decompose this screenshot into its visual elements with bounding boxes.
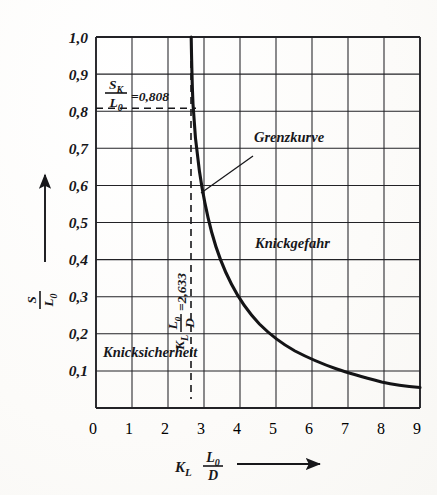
y-tick-0.4: 0,4 [69,251,89,268]
y-axis-title-group: S L0 [24,175,59,309]
y-tick-0.8: 0,8 [69,103,89,120]
x-axis-title-group: KL L0 D [174,450,320,483]
y-tick-0.6: 0,6 [69,177,89,194]
x-tick-4: 4 [233,420,241,437]
y-axis-tick-labels: 1,0 0,9 0,8 0,7 0,6 0,5 0,4 0,3 0,2 0,1 [69,29,90,379]
sk-ratio-denominator: L0 [108,95,122,113]
sk-ratio-value: =0,808 [131,89,169,104]
y-tick-0.7: 0,7 [69,140,90,157]
asymptote-value: =2,633 [174,273,189,311]
x-tick-8: 8 [377,420,385,437]
x-axis-title-kl: KL [174,459,192,478]
x-axis-title-numerator: L0 [205,450,220,468]
x-tick-0: 0 [89,420,97,437]
x-axis-tick-labels: 0 1 2 3 4 5 6 7 8 9 [89,420,421,437]
x-tick-2: 2 [161,420,169,437]
grenzkurve-leader-line [201,156,253,193]
x-tick-1: 1 [125,420,133,437]
x-tick-6: 6 [305,420,313,437]
x-axis-title-denominator: D [207,468,218,483]
x-tick-9: 9 [413,420,421,437]
x-tick-7: 7 [341,420,349,437]
sk-ratio-numerator: SK [109,77,125,95]
y-axis-title-numerator: S [24,296,39,303]
y-tick-0.5: 0,5 [69,214,89,231]
grenzkurve-label: Grenzkurve [254,129,325,145]
y-axis-title-denominator: L0 [41,294,59,308]
knicksicherheit-chart-figure: 1,0 0,9 0,8 0,7 0,6 0,5 0,4 0,3 0,2 0,1 … [0,0,437,495]
x-tick-5: 5 [269,420,277,437]
y-tick-0.9: 0,9 [69,66,89,83]
chart-svg: 1,0 0,9 0,8 0,7 0,6 0,5 0,4 0,3 0,2 0,1 … [0,0,437,495]
grenzkurve-curve [191,37,420,388]
knicksicherheit-label: Knicksicherheit [102,344,198,360]
asymptote-denominator: D [182,318,197,329]
asymptote-annotation: KL L0 D =2,633 [165,273,197,351]
y-tick-0.1: 0,1 [69,362,88,379]
x-tick-3: 3 [197,420,205,437]
y-tick-0.2: 0,2 [69,325,89,342]
grenzkurve-path [191,37,420,388]
y-tick-0.3: 0,3 [69,288,89,305]
sk-ratio-annotation: SK L0 =0,808 [105,77,169,113]
y-tick-1.0: 1,0 [69,29,89,46]
knickgefahr-label: Knickgefahr [254,235,330,251]
